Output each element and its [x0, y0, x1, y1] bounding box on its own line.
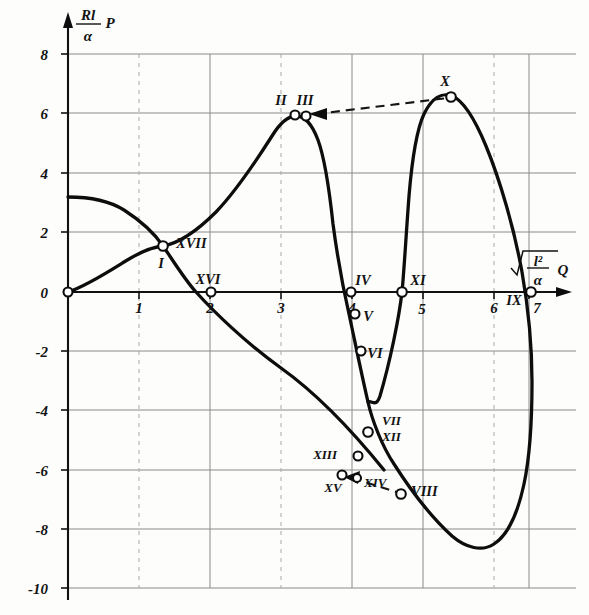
- marker-origin[interactable]: [64, 288, 73, 297]
- point-labels: I XVII XVI II III X IV V VI XI IX VII XI…: [157, 73, 522, 499]
- y-axis-label-factor: P: [105, 15, 115, 31]
- marker-VIII[interactable]: [396, 489, 406, 499]
- y-tick-label-6: 6: [41, 106, 49, 122]
- marker-VI[interactable]: [357, 347, 366, 356]
- x-axis: [68, 287, 572, 299]
- point-label-XIV: XIV: [363, 475, 388, 490]
- x-axis-label-radical-numerator: l²: [534, 253, 543, 269]
- marker-I-XVII[interactable]: [158, 241, 168, 251]
- point-label-V: V: [363, 308, 374, 324]
- point-label-II: II: [274, 92, 288, 108]
- point-label-I: I: [157, 255, 165, 271]
- point-label-XV: XV: [323, 480, 343, 495]
- y-tick-label-m6: -6: [36, 463, 49, 479]
- y-tick-label-m8: -8: [36, 522, 49, 538]
- y-tick-label-m4: -4: [36, 403, 49, 419]
- x-tick-label-6: 6: [490, 300, 498, 316]
- y-axis-label-numerator: Rl: [80, 7, 96, 23]
- marker-V[interactable]: [351, 310, 360, 319]
- point-label-XIII: XIII: [312, 447, 338, 462]
- y-tick-label-m2: -2: [36, 344, 49, 360]
- marker-XIV[interactable]: [353, 474, 361, 482]
- marker-III[interactable]: [302, 112, 311, 121]
- point-label-III: III: [296, 92, 315, 108]
- curve-big-loop: [368, 95, 532, 548]
- figure-root: 8 6 4 2 0 -2 -4 -6 -8 -10 1 2 3 4 5 6 7 …: [0, 0, 589, 615]
- y-axis: [61, 12, 73, 600]
- marker-XIII[interactable]: [354, 452, 363, 461]
- x-axis-arrowhead: [556, 287, 572, 297]
- y-axis-tick-labels: 8 6 4 2 0 -2 -4 -6 -8 -10: [28, 47, 49, 597]
- marker-IX[interactable]: [526, 287, 536, 297]
- point-label-IX: IX: [505, 292, 522, 308]
- marker-X[interactable]: [446, 92, 456, 102]
- y-tick-label-m10: -10: [28, 581, 48, 597]
- y-axis-label-denominator: α: [84, 28, 93, 44]
- x-axis-label-radical-denominator: α: [534, 272, 543, 288]
- grid-vertical-lines: [139, 54, 529, 588]
- x-tick-label-1: 1: [135, 300, 143, 316]
- marker-II[interactable]: [291, 111, 300, 120]
- curve-rising-branch: [68, 116, 368, 402]
- x-axis-tick-labels: 1 2 3 4 5 6 7: [135, 300, 541, 317]
- y-axis-label: Rl α P: [76, 7, 115, 44]
- point-label-XI: XI: [409, 272, 427, 288]
- marker-XV[interactable]: [338, 471, 347, 480]
- y-axis-arrowhead: [63, 12, 73, 28]
- y-tick-label-0: 0: [41, 285, 49, 301]
- marker-IV[interactable]: [347, 288, 356, 297]
- plot-canvas: 8 6 4 2 0 -2 -4 -6 -8 -10 1 2 3 4 5 6 7 …: [0, 0, 589, 615]
- x-tick-label-7: 7: [533, 300, 541, 316]
- upper-dashed-arrowhead: [309, 108, 327, 120]
- point-label-VII: VII: [382, 413, 402, 428]
- point-label-XVII: XVII: [175, 235, 208, 251]
- x-axis-label-factor: Q: [558, 262, 569, 278]
- point-label-IV: IV: [354, 272, 372, 288]
- marker-XI[interactable]: [397, 287, 407, 297]
- y-tick-label-8: 8: [41, 47, 49, 63]
- y-tick-label-4: 4: [40, 166, 49, 182]
- point-label-X: X: [439, 73, 450, 89]
- point-label-VIII: VIII: [411, 483, 439, 499]
- marker-XVI[interactable]: [207, 288, 216, 297]
- marker-VII-XII[interactable]: [363, 427, 373, 437]
- x-tick-label-5: 5: [418, 301, 426, 317]
- point-label-VI: VI: [367, 345, 384, 361]
- data-point-markers: [64, 92, 536, 499]
- grid-horizontal-lines: [68, 54, 576, 588]
- y-tick-label-2: 2: [40, 225, 49, 241]
- point-label-XII: XII: [381, 429, 402, 444]
- point-label-XVI: XVI: [195, 271, 222, 287]
- x-tick-label-3: 3: [276, 300, 285, 316]
